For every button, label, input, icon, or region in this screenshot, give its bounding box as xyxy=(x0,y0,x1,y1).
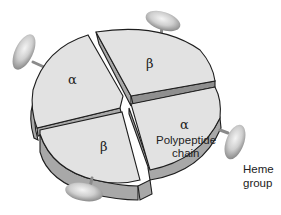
heme-group-label-line1: Heme xyxy=(243,163,274,175)
hemoglobin-diagram: α β β α Polypeptide chain xyxy=(0,0,281,215)
heme-group-right xyxy=(220,122,250,162)
label-alpha-top-left: α xyxy=(68,72,77,87)
heme-group-left xyxy=(8,31,44,73)
label-beta-top-right: β xyxy=(146,56,154,71)
label-alpha-bottom-right: α xyxy=(180,117,189,132)
caption-chain: chain xyxy=(172,147,200,159)
label-beta-bottom-left: β xyxy=(100,139,108,154)
caption-polypeptide: Polypeptide xyxy=(156,134,216,146)
subunit-alpha-bottom-right: α Polypeptide chain xyxy=(129,87,221,200)
heme-group-label-line2: group xyxy=(243,177,272,189)
